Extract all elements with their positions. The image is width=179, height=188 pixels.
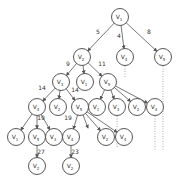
edge-weight-label: 9 xyxy=(66,60,70,67)
edge xyxy=(88,23,114,51)
edge-weight-label: 19 xyxy=(64,114,72,121)
tree-node: V1 xyxy=(89,99,106,116)
tree-diagram: 548911141419192723 V1V2V4V5V3V1V5V4V2V5V… xyxy=(0,0,179,188)
edge-weight-label: 27 xyxy=(37,148,45,155)
tree-node: V4 xyxy=(63,129,80,146)
tree-node: V1 xyxy=(112,9,129,26)
tree-node: V2 xyxy=(129,99,146,116)
tree-node: V3 xyxy=(53,74,70,91)
tree-node: V3 xyxy=(46,129,63,146)
edge xyxy=(83,65,84,73)
tree-node: V1 xyxy=(8,129,25,146)
edge xyxy=(73,115,77,129)
tree-node: V2 xyxy=(50,99,67,116)
tree-node: V4 xyxy=(116,129,133,146)
edge xyxy=(59,90,60,98)
edge xyxy=(100,90,104,99)
edge-weight-label: 14 xyxy=(38,84,46,91)
tree-node: V5 xyxy=(155,49,172,66)
tree-node: V4 xyxy=(147,99,164,116)
edge xyxy=(111,90,114,99)
edge xyxy=(121,25,124,48)
tree-node: V5 xyxy=(72,99,89,116)
tree-node: V2 xyxy=(29,158,46,175)
tree-node: V2 xyxy=(98,129,115,146)
edge xyxy=(41,114,50,129)
edge-weight-label: 11 xyxy=(98,60,106,67)
edge-weight-label: 23 xyxy=(71,148,79,155)
edge-weight-label: 5 xyxy=(96,28,100,35)
tree-node: V4 xyxy=(117,49,134,66)
tree-node: V1 xyxy=(77,74,94,91)
edge-weight-label: 8 xyxy=(147,28,151,35)
tree-node: V5 xyxy=(100,74,117,91)
tree-node: V3 xyxy=(109,99,126,116)
tree-node: V5 xyxy=(29,129,46,146)
stub-arrow xyxy=(83,115,88,128)
tree-node: V2 xyxy=(63,158,80,175)
edge xyxy=(126,23,157,51)
tree-node: V2 xyxy=(74,49,91,66)
tree-node: V4 xyxy=(29,99,46,116)
edge-weight-label: 4 xyxy=(117,32,121,39)
edge xyxy=(21,114,32,130)
